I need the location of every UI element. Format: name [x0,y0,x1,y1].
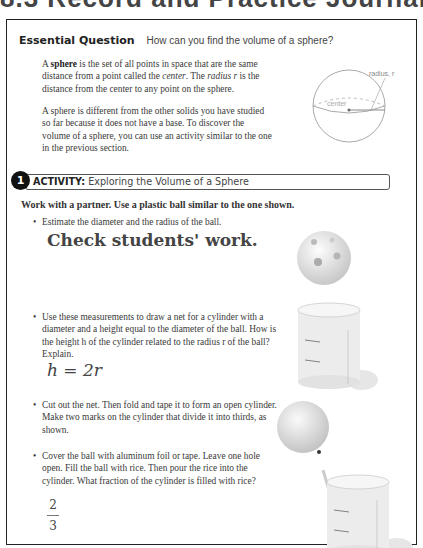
fraction-bar [47,515,59,516]
term-sphere: sphere [51,59,77,69]
essential-question-text: How can you find the volume of a sphere? [147,35,334,46]
essential-question: Essential Question How can you find the … [19,30,333,48]
center-label: center [327,100,347,107]
page-header-title: 8.3 Record and Practice Journal [0,0,423,8]
activity-title: ACTIVITY: Exploring the Volume of a Sphe… [33,176,249,187]
paper-cylinder-icon [290,300,380,395]
fraction-numerator: 2 [49,498,57,512]
text-fragment: A [42,59,51,69]
bullet-item: Cover the ball with aluminum foil or tap… [42,450,282,487]
answer-4-fraction: 2 3 [47,498,59,533]
worksheet-frame: Essential Question How can you find the … [6,19,417,545]
plastic-ball-icon [294,228,354,288]
text-fragment: . The [186,71,207,81]
sphere-diagram-icon: radius, r center [305,54,405,154]
essential-question-label: Essential Question [19,34,135,47]
bullet-item: Cut out the net. Then fold and tape it t… [42,399,282,436]
rice-filled-ball-icon [277,400,337,460]
term-center: center [162,71,185,81]
radius-label: radius, r [369,70,395,77]
term-radius: radius r [207,71,237,81]
activity-title-text: Exploring the Volume of a Sphere [88,176,249,187]
activity-number-badge: 1 [11,171,30,190]
rice-cylinder-icon [319,470,414,548]
bullet-item: Use these measurements to draw a net for… [42,311,282,361]
intro-paragraph-1: A sphere is the set of all points in spa… [42,58,274,95]
activity-instruction: Work with a partner. Use a plastic ball … [21,199,294,210]
intro-paragraph-2: A sphere is different from the other sol… [42,105,274,155]
activity-label: ACTIVITY: [33,176,85,187]
answer-2: h = 2r [47,360,102,380]
fraction-denominator: 3 [49,519,57,533]
answer-1: Check students' work. [47,230,258,250]
bullet-item: Estimate the diameter and the radius of … [42,216,282,228]
